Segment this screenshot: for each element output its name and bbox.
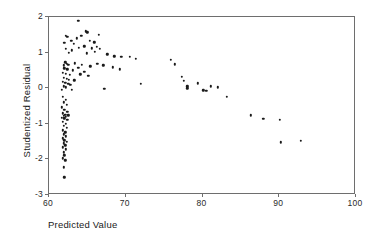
data-point bbox=[300, 140, 302, 142]
data-point bbox=[83, 45, 85, 47]
data-point bbox=[67, 63, 69, 65]
y-axis-tick bbox=[45, 87, 48, 88]
data-point bbox=[93, 41, 95, 43]
x-axis-tick-label: 100 bbox=[348, 198, 363, 208]
y-axis-tick bbox=[45, 158, 48, 159]
y-axis-title: Studentized Residual bbox=[21, 41, 32, 181]
data-point bbox=[67, 114, 69, 116]
data-point bbox=[103, 88, 105, 90]
data-point bbox=[86, 31, 88, 33]
data-point bbox=[62, 166, 64, 168]
data-point bbox=[68, 51, 70, 53]
data-point bbox=[279, 118, 281, 120]
data-point bbox=[66, 110, 68, 112]
y-axis-tick bbox=[45, 16, 48, 17]
data-point bbox=[65, 104, 67, 106]
data-point bbox=[197, 82, 199, 84]
data-point bbox=[66, 36, 68, 38]
data-point bbox=[170, 59, 172, 61]
data-point bbox=[65, 72, 67, 74]
x-axis-tick-label: 60 bbox=[43, 198, 53, 208]
data-point bbox=[71, 49, 73, 51]
data-point bbox=[64, 159, 66, 161]
data-point bbox=[63, 42, 65, 44]
x-axis-tick bbox=[355, 194, 356, 197]
data-point bbox=[183, 80, 185, 82]
data-point bbox=[66, 68, 68, 70]
data-point bbox=[96, 62, 98, 64]
data-point bbox=[111, 66, 113, 68]
data-point bbox=[98, 34, 100, 36]
data-point bbox=[72, 69, 74, 71]
y-axis-tick-label: -3 bbox=[0, 189, 43, 199]
data-point bbox=[205, 89, 207, 91]
data-point bbox=[61, 89, 63, 91]
x-axis-title: Predicted Value bbox=[48, 219, 117, 230]
data-point bbox=[88, 40, 90, 42]
data-point bbox=[71, 88, 73, 90]
data-point bbox=[79, 73, 81, 75]
data-point bbox=[135, 57, 137, 59]
data-point bbox=[95, 45, 97, 47]
data-point bbox=[98, 48, 100, 50]
data-point bbox=[113, 55, 115, 57]
data-point bbox=[72, 43, 74, 45]
data-point bbox=[68, 78, 70, 80]
data-point bbox=[250, 114, 252, 116]
data-point bbox=[78, 46, 80, 48]
data-point bbox=[62, 146, 64, 148]
data-point bbox=[62, 76, 64, 78]
y-axis-tick bbox=[45, 52, 48, 53]
data-point bbox=[181, 76, 183, 78]
data-point bbox=[226, 96, 228, 98]
data-point bbox=[73, 79, 75, 81]
data-point bbox=[65, 135, 67, 137]
x-axis-tick bbox=[278, 194, 279, 197]
data-point bbox=[63, 67, 65, 69]
data-point bbox=[128, 56, 130, 58]
data-points-layer bbox=[49, 17, 354, 193]
data-point bbox=[140, 83, 142, 85]
data-point bbox=[63, 154, 65, 156]
data-point bbox=[217, 86, 219, 88]
data-point bbox=[89, 65, 91, 67]
data-point bbox=[280, 141, 282, 143]
data-point bbox=[69, 84, 71, 86]
data-point bbox=[106, 53, 108, 55]
data-point bbox=[64, 82, 66, 84]
data-point bbox=[62, 96, 64, 98]
data-point bbox=[70, 40, 72, 42]
data-point bbox=[62, 71, 64, 73]
data-point bbox=[66, 118, 68, 120]
data-point bbox=[65, 148, 67, 150]
data-point bbox=[65, 98, 67, 100]
data-point bbox=[62, 120, 64, 122]
data-point bbox=[81, 63, 83, 65]
data-point bbox=[210, 85, 212, 87]
x-axis-tick bbox=[48, 194, 49, 197]
data-point bbox=[65, 48, 67, 50]
y-axis-tick-label: 2 bbox=[0, 11, 43, 21]
data-point bbox=[118, 68, 120, 70]
data-point bbox=[94, 51, 96, 53]
data-point bbox=[75, 37, 77, 39]
data-point bbox=[77, 67, 79, 69]
data-point bbox=[65, 123, 67, 125]
x-axis-tick-label: 70 bbox=[120, 198, 130, 208]
data-point bbox=[186, 87, 188, 89]
data-point bbox=[77, 19, 79, 21]
data-point bbox=[102, 64, 104, 66]
data-point bbox=[63, 176, 65, 178]
data-point bbox=[85, 52, 87, 54]
x-axis-tick bbox=[125, 194, 126, 197]
data-point bbox=[202, 89, 204, 91]
data-point bbox=[74, 62, 76, 64]
plot-area bbox=[48, 16, 355, 194]
data-point bbox=[174, 63, 176, 65]
data-point bbox=[63, 109, 65, 111]
data-point bbox=[69, 74, 71, 76]
y-axis-tick bbox=[45, 123, 48, 124]
data-point bbox=[63, 117, 65, 119]
data-point bbox=[262, 118, 264, 120]
data-point bbox=[62, 101, 64, 103]
